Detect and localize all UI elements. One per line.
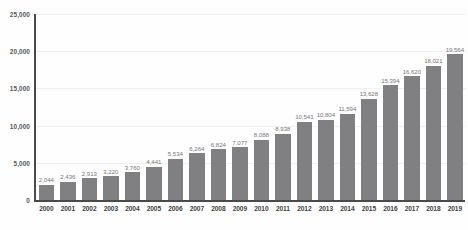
bar-slot: 2,436 <box>57 14 79 200</box>
bar-chart: 05,00010,00015,00020,00025,000 2,0442,43… <box>0 0 468 230</box>
y-tick-label: 5,000 <box>14 159 31 166</box>
bar-value-label: 11,594 <box>338 105 356 112</box>
y-tick-label: 25,000 <box>10 11 30 18</box>
bar[interactable] <box>146 167 161 200</box>
bar-slot: 4,441 <box>143 14 165 200</box>
bar-value-label: 3,220 <box>103 168 118 175</box>
bar-value-label: 15,394 <box>381 77 399 84</box>
x-tick-label: 2014 <box>337 205 359 212</box>
x-tick-label: 2008 <box>208 205 230 212</box>
bar-slot: 11,594 <box>337 14 359 200</box>
bar-slot: 18,021 <box>423 14 445 200</box>
bar-slot: 7,077 <box>229 14 251 200</box>
x-tick-label: 2016 <box>380 205 402 212</box>
bar-slot: 8,088 <box>251 14 273 200</box>
bar[interactable] <box>60 182 75 200</box>
x-tick-label: 2003 <box>100 205 122 212</box>
x-tick-label: 2006 <box>165 205 187 212</box>
bar-slot: 5,534 <box>165 14 187 200</box>
bar-value-label: 3,760 <box>125 164 140 171</box>
x-tick-label: 2005 <box>143 205 165 212</box>
x-tick-label: 2015 <box>358 205 380 212</box>
x-tick-label: 2002 <box>79 205 101 212</box>
bar-value-label: 16,620 <box>403 68 421 75</box>
bar[interactable] <box>275 134 290 200</box>
bar[interactable] <box>39 185 54 200</box>
bar[interactable] <box>232 147 247 200</box>
bar-slot: 15,394 <box>380 14 402 200</box>
bar-slot: 10,541 <box>294 14 316 200</box>
bar-value-label: 5,534 <box>168 150 183 157</box>
bar-value-label: 2,913 <box>82 170 97 177</box>
bar-value-label: 13,628 <box>360 90 378 97</box>
bar-value-label: 6,264 <box>189 145 204 152</box>
x-tick-label: 2010 <box>251 205 273 212</box>
bar-slot: 13,628 <box>358 14 380 200</box>
bar-slot: 2,044 <box>36 14 58 200</box>
bar-value-label: 19,564 <box>446 46 464 53</box>
bar-value-label: 6,824 <box>211 141 226 148</box>
bar-slot: 6,264 <box>186 14 208 200</box>
bar-slot: 2,913 <box>79 14 101 200</box>
bar[interactable] <box>189 153 204 200</box>
bars-container: 2,0442,4362,9133,2203,7604,4415,5346,264… <box>36 14 466 200</box>
bar[interactable] <box>383 85 398 200</box>
bar[interactable] <box>297 122 312 200</box>
y-tick-label: 0 <box>26 197 30 204</box>
y-axis: 05,00010,00015,00020,00025,000 <box>0 0 34 230</box>
plot-area: 2,0442,4362,9133,2203,7604,4415,5346,264… <box>36 14 466 200</box>
bar[interactable] <box>103 176 118 200</box>
x-tick-label: 2018 <box>423 205 445 212</box>
bar[interactable] <box>125 172 140 200</box>
bar-value-label: 2,044 <box>39 176 54 183</box>
x-tick-label: 2001 <box>57 205 79 212</box>
bar-value-label: 10,541 <box>295 113 313 120</box>
bar[interactable] <box>426 66 441 200</box>
y-tick-label: 15,000 <box>10 85 30 92</box>
bar-slot: 16,620 <box>401 14 423 200</box>
bar[interactable] <box>168 159 183 200</box>
x-tick-label: 2013 <box>315 205 337 212</box>
bar-slot: 6,824 <box>208 14 230 200</box>
y-tick-label: 10,000 <box>10 122 30 129</box>
bar-value-label: 8,938 <box>275 125 290 132</box>
bar[interactable] <box>361 99 376 200</box>
x-tick-label: 2017 <box>401 205 423 212</box>
x-tick-label: 2011 <box>272 205 294 212</box>
x-tick-label: 2004 <box>122 205 144 212</box>
bar[interactable] <box>211 149 226 200</box>
x-tick-label: 2007 <box>186 205 208 212</box>
bar[interactable] <box>340 114 355 200</box>
bar-value-label: 10,804 <box>317 111 335 118</box>
bar[interactable] <box>254 140 269 200</box>
bar-value-label: 4,441 <box>146 158 161 165</box>
bar-slot: 3,760 <box>122 14 144 200</box>
bar-value-label: 8,088 <box>254 131 269 138</box>
y-tick-label: 20,000 <box>10 48 30 55</box>
x-tick-label: 2012 <box>294 205 316 212</box>
bar-value-label: 18,021 <box>424 57 442 64</box>
bar-slot: 3,220 <box>100 14 122 200</box>
bar-value-label: 2,436 <box>60 173 75 180</box>
bar-slot: 19,564 <box>444 14 466 200</box>
x-tick-label: 2009 <box>229 205 251 212</box>
bar[interactable] <box>447 54 462 200</box>
bar-value-label: 7,077 <box>232 139 247 146</box>
x-axis: 2000200120022003200420052006200720082009… <box>36 205 466 219</box>
bar[interactable] <box>404 76 419 200</box>
x-tick-label: 2019 <box>444 205 466 212</box>
bar-slot: 10,804 <box>315 14 337 200</box>
x-tick-label: 2000 <box>36 205 58 212</box>
x-axis-line <box>34 200 465 202</box>
bar[interactable] <box>82 178 97 200</box>
bar[interactable] <box>318 120 333 200</box>
bar-slot: 8,938 <box>272 14 294 200</box>
